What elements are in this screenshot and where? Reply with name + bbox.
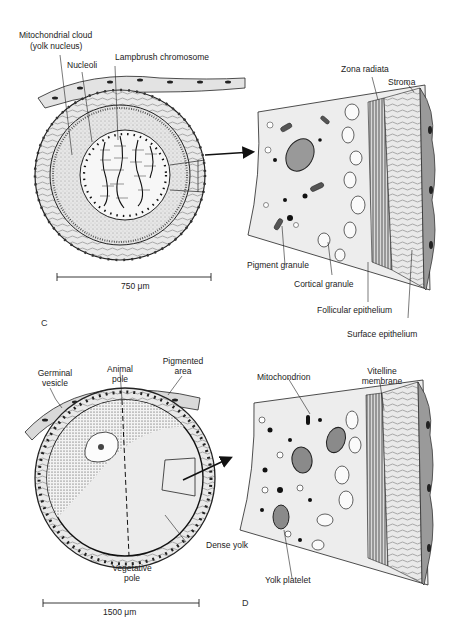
label-yolk-platelet: Yolk platelet [265,575,311,585]
panel-letter-c: C [41,318,48,328]
scale-bar-c [57,273,211,281]
panel-letter-d: D [242,598,249,608]
label-animal-pole: Animal pole [100,364,140,384]
panel-d-cortex-detail [240,380,433,585]
scale-bar-d-label: 1500 μm [103,607,136,617]
label-nucleoli: Nucleoli [67,60,97,70]
label-vegetative-pole: Vegetative pole [107,563,157,583]
panel-c-oocyte [35,76,252,260]
scale-bar-c-label: 750 μm [121,281,150,291]
label-vitelline-membrane-line1: Vitelline [355,366,409,376]
label-vegetative-pole-line1: Vegetative [107,563,157,573]
label-germinal-vesicle: Germinal vesicle [30,368,80,388]
label-surface-epithelium: Surface epithelium [347,329,417,339]
label-vitelline-membrane: Vitelline membrane [355,366,409,386]
label-follicular-epithelium: Follicular epithelium [317,305,392,315]
label-pigmented-area-line1: Pigmented [158,356,208,366]
label-stroma: Stroma [388,77,415,87]
label-mitochondrion: Mitochondrion [257,372,310,382]
label-yolk-nucleus: (yolk nucleus) [30,41,82,51]
panel-d-oocyte [25,388,230,568]
label-animal-pole-line1: Animal [100,364,140,374]
label-pigment-granule: Pigment granule [247,260,309,270]
label-zona-radiata: Zona radiata [341,64,389,74]
label-vitelline-membrane-line2: membrane [355,376,409,386]
label-animal-pole-line2: pole [100,374,140,384]
label-germinal-vesicle-line1: Germinal [30,368,80,378]
label-pigmented-area: Pigmented area [158,356,208,376]
label-dense-yolk: Dense yolk [206,540,248,550]
label-lampbrush-chromosome: Lampbrush chromosome [115,52,209,62]
label-vegetative-pole-line2: pole [107,573,157,583]
label-mitochondrial-cloud: Mitochondrial cloud [19,30,92,40]
label-germinal-vesicle-line2: vesicle [30,378,80,388]
label-cortical-granule: Cortical granule [294,279,354,289]
label-pigmented-area-line2: area [158,366,208,376]
scale-bar-d [43,599,199,607]
